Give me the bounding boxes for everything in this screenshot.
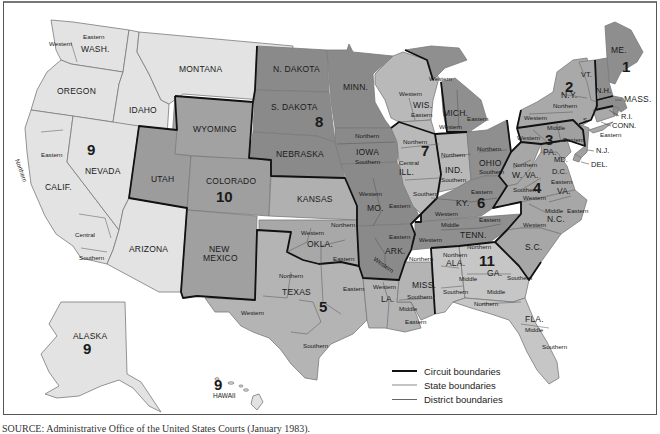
district-label: Western [435, 210, 458, 217]
district-label: Southern [79, 254, 105, 261]
district-label: Southern [413, 190, 439, 197]
district-label: Western [49, 40, 72, 47]
district-label: Southern [355, 158, 381, 165]
district-label: Northern [553, 102, 578, 109]
state-colorado [187, 156, 271, 216]
label-ill: ILL. [399, 167, 414, 177]
legend-label-circuit: Circuit boundaries [424, 366, 501, 377]
label-iowa: IOWA [356, 147, 379, 157]
district-label: Western [419, 236, 442, 243]
district-label: Middle [547, 124, 566, 131]
circuit-number-3: 3 [545, 131, 553, 148]
legend-item-circuit: Circuit boundaries [392, 364, 503, 378]
district-label: Northern [355, 132, 380, 139]
district-label: Middle [399, 305, 418, 312]
district-label: Middle [545, 207, 564, 214]
circuit-number-8: 8 [315, 113, 323, 130]
district-label: Western [439, 123, 462, 130]
district-label: Southern [542, 343, 568, 350]
district-label: Southern [513, 186, 539, 193]
district-label: Western [301, 229, 324, 236]
district-label: Eastern [600, 131, 622, 138]
label-fla: FLA. [525, 314, 544, 324]
district-label: Southern [407, 293, 433, 300]
label-vt: VT. [581, 70, 592, 79]
label-utah: UTAH [151, 174, 174, 184]
circuit-number-1: 1 [622, 58, 630, 75]
label-ark: ARK. [385, 246, 406, 256]
district-label: Eastern [551, 178, 573, 185]
district-label: Southern [441, 176, 467, 183]
circuit-number-2: 2 [565, 78, 573, 95]
label-ky: KY. [456, 198, 469, 208]
district-label: Northern [409, 255, 434, 262]
district-label: Middle [441, 221, 460, 228]
state-rhode-island [613, 106, 619, 116]
label-oregon: OREGON [57, 86, 96, 96]
district-label: S [583, 116, 587, 123]
district-label: Central [75, 231, 95, 238]
district-label: Northern [467, 243, 492, 250]
circuit-number-5: 5 [319, 298, 327, 315]
source-caption: SOURCE: Administrative Office of the Uni… [2, 423, 310, 434]
label-tenn: TENN. [460, 230, 487, 240]
district-label: Eastern [479, 216, 501, 223]
label-hawaii: HAWAII [213, 392, 236, 399]
label-va: VA. [557, 186, 571, 196]
district-label: Eastern [567, 207, 589, 214]
label-ri: R.I. [621, 112, 633, 121]
district-label: Southern [479, 168, 505, 175]
state-alaska [41, 302, 161, 412]
label-okla: OKLA. [307, 239, 333, 249]
district-label: Western [517, 134, 540, 141]
circuit-boundary-swatch [392, 370, 417, 372]
district-boundary-swatch [392, 399, 417, 400]
label-nevada: NEVADA [85, 166, 121, 176]
district-label: Eastern [343, 285, 365, 292]
district-label: Western [373, 283, 396, 290]
legend-label-district: District boundaries [424, 394, 503, 405]
circuit-number-6: 6 [477, 194, 485, 211]
legend-item-state: State boundaries [392, 378, 503, 392]
district-label: Central [399, 159, 419, 166]
district-label: Western [359, 190, 382, 197]
label-conn: CONN. [612, 121, 636, 130]
label-sdakota: S. DAKOTA [271, 102, 318, 112]
us-judicial-circuits-map: WASH. OREGON IDAHO MONTANA CALIF. NEVADA… [4, 3, 658, 417]
district-label: Eastern [467, 115, 489, 122]
district-label: Eastern [41, 151, 63, 158]
district-label: Eastern [389, 202, 411, 209]
label-new-mexico-2: MEXICO [203, 253, 238, 263]
label-montana: MONTANA [179, 64, 222, 74]
district-label: Western [524, 114, 547, 121]
label-nj: N.J. [596, 146, 609, 155]
label-ndakota: N. DAKOTA [273, 64, 320, 74]
label-ga: GA. [487, 268, 502, 278]
district-label: Middle [487, 288, 506, 295]
district-label: Middle [525, 326, 544, 333]
district-label: Western [241, 309, 264, 316]
district-label: Western [523, 194, 546, 201]
label-mo: MO. [367, 203, 384, 213]
label-pa: PA. [543, 147, 557, 157]
label-nebraska: NEBRASKA [276, 149, 324, 159]
label-miss: MISS. [412, 280, 436, 290]
label-la: LA. [381, 294, 394, 304]
label-ohio: OHIO [479, 158, 502, 168]
district-label: Southern [443, 288, 469, 295]
label-ala: ALA. [446, 258, 465, 268]
label-me: ME. [611, 45, 627, 55]
legend-label-state: State boundaries [424, 380, 496, 391]
circuit-number-10: 10 [216, 188, 233, 205]
state-boundary-swatch [392, 384, 417, 386]
label-wyoming: WYOMING [193, 124, 237, 134]
label-calif: CALIF. [45, 182, 72, 192]
label-idaho: IDAHO [129, 105, 157, 115]
district-label: Northern [279, 272, 304, 279]
label-texas: TEXAS [282, 287, 311, 297]
circuit-number-9-alaska: 9 [83, 340, 91, 357]
district-label: Eastern [333, 255, 355, 262]
district-label: Eastern [411, 111, 433, 118]
district-label: Eastern [83, 33, 105, 40]
district-label: Northern [403, 138, 428, 145]
